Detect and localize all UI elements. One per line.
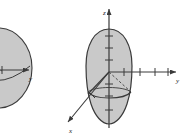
right-z-axis-label: z — [102, 9, 106, 17]
math-figure-container: y — [0, 0, 188, 137]
diagram-svg: y — [0, 0, 188, 137]
